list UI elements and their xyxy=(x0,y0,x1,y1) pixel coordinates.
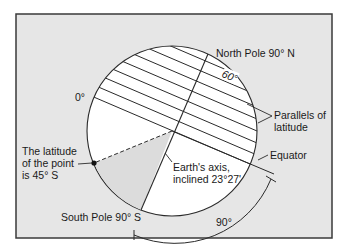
latitude-point xyxy=(91,160,96,165)
zero-degree-label: 0° xyxy=(75,91,85,103)
point-label-line3: is 45° S xyxy=(22,169,58,181)
south-pole-label: South Pole 90° S xyxy=(61,211,141,223)
parallels-label-line1: Parallels of xyxy=(274,109,326,121)
axis-label-line1: Earth's axis, xyxy=(173,161,230,173)
point-label-line1: The latitude xyxy=(22,145,77,157)
parallels-label-line2: latitude xyxy=(274,121,308,133)
equator-label: Equator xyxy=(270,149,307,161)
north-pole-label: North Pole 90° N xyxy=(216,47,295,59)
latitude-diagram: North Pole 90° N 0° 60° Parallels of lat… xyxy=(0,0,347,252)
ninety-degree-label: 90° xyxy=(216,216,232,228)
axis-label-line2: inclined 23°27' xyxy=(173,173,241,185)
point-label-line2: of the point xyxy=(22,157,74,169)
